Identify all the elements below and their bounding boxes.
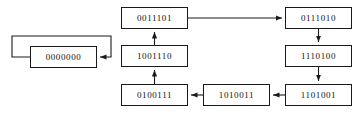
- state-node-top-right[interactable]: 0111010: [285, 7, 352, 29]
- state-label: 1001110: [137, 52, 172, 61]
- state-label: 0100111: [137, 91, 172, 100]
- state-label: 0111010: [301, 14, 336, 23]
- state-transition-diagram: 0000000 0011101 0111010 1001110 1110100 …: [0, 0, 360, 118]
- state-label: 1010011: [219, 91, 254, 100]
- state-label: 1110100: [301, 52, 336, 61]
- state-label: 1101001: [301, 91, 336, 100]
- state-node-bottom-mid[interactable]: 1010011: [203, 84, 270, 106]
- state-node-top-center[interactable]: 0011101: [121, 7, 188, 29]
- state-node-bottom-right[interactable]: 1101001: [285, 84, 352, 106]
- state-node-bottom-left[interactable]: 0100111: [121, 84, 188, 106]
- state-node-mid-right[interactable]: 1110100: [285, 45, 352, 67]
- state-label: 0011101: [137, 14, 172, 23]
- state-node-mid-center[interactable]: 1001110: [121, 45, 188, 67]
- state-label: 0000000: [46, 53, 82, 62]
- state-node-zero[interactable]: 0000000: [30, 46, 97, 68]
